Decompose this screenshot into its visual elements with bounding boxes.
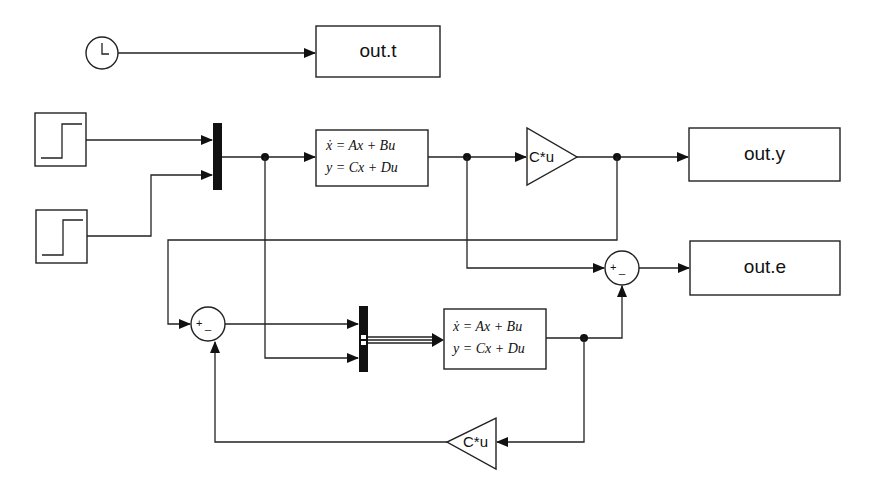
ss2-state-eq: ẋ = Ax + Bu <box>453 316 525 338</box>
step2-block[interactable] <box>36 210 87 263</box>
out-e-label: out.e <box>690 256 840 278</box>
bus-wire-mux2-to-ss2 <box>368 337 434 343</box>
sum1-minus: _ <box>205 319 211 331</box>
sum2-minus: _ <box>619 263 625 275</box>
ss1-output-eq: y = Cx + Du <box>326 157 398 179</box>
out-y-label: out.y <box>689 143 840 165</box>
sum2-plus: + <box>610 261 616 273</box>
wire-gain2-to-sum1 <box>215 342 447 442</box>
gain2-label: C*u <box>463 433 488 450</box>
sum1-plus: + <box>196 317 202 329</box>
wire-mux1-to-mux2 <box>265 157 358 358</box>
wire-ss2-to-sum2 <box>546 286 622 338</box>
gain1-label: C*u <box>529 148 554 165</box>
ss1-state-eq: ẋ = Ax + Bu <box>326 135 398 157</box>
wire-step2-to-mux1 <box>87 175 212 236</box>
out-t-label: out.t <box>316 40 440 62</box>
mux1-block[interactable] <box>213 123 222 190</box>
ss2-equations: ẋ = Ax + Bu y = Cx + Du <box>453 316 525 360</box>
ss2-output-eq: y = Cx + Du <box>453 338 525 360</box>
ss1-equations: ẋ = Ax + Bu y = Cx + Du <box>326 135 398 179</box>
clock-block[interactable] <box>86 37 118 69</box>
diagram-canvas <box>0 0 872 495</box>
step1-block[interactable] <box>35 113 86 166</box>
arrow-head <box>432 333 444 347</box>
